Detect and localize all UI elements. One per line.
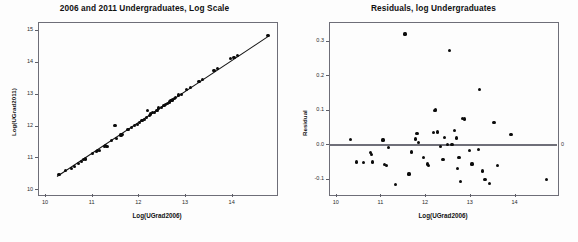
x-tick-mark bbox=[470, 194, 471, 197]
zero-reference-line bbox=[329, 144, 557, 145]
data-point bbox=[362, 161, 365, 164]
data-point bbox=[415, 132, 418, 135]
data-point bbox=[436, 130, 439, 133]
data-point bbox=[197, 80, 200, 83]
data-point bbox=[456, 167, 459, 170]
x-tick-mark bbox=[515, 194, 516, 197]
zero-reference-right-label: 0 bbox=[561, 141, 564, 147]
x-tick-mark bbox=[45, 194, 46, 197]
data-point bbox=[455, 136, 458, 139]
data-point bbox=[403, 32, 406, 35]
y-tick-label: 14 bbox=[10, 58, 33, 64]
y-tick-label: -0.1 bbox=[301, 175, 324, 181]
data-point bbox=[73, 165, 76, 168]
data-point bbox=[414, 137, 417, 140]
data-point bbox=[481, 169, 484, 172]
y-tick-label: 13 bbox=[10, 90, 33, 96]
y-tick-label: 11 bbox=[10, 154, 33, 160]
data-point bbox=[371, 160, 374, 163]
y-tick-label: 0.1 bbox=[301, 106, 324, 112]
x-tick-label: 14 bbox=[222, 199, 242, 205]
data-point bbox=[180, 93, 183, 96]
y-axis-label-right: Residual bbox=[301, 110, 308, 136]
data-point bbox=[57, 173, 60, 176]
x-tick-mark bbox=[92, 194, 93, 197]
y-tick-label: 12 bbox=[10, 122, 33, 128]
x-tick-label: 12 bbox=[128, 199, 148, 205]
y-tick-label: 10 bbox=[10, 186, 33, 192]
x-tick-mark bbox=[185, 194, 186, 197]
x-tick-label: 13 bbox=[175, 199, 195, 205]
y-tick-label: 15 bbox=[10, 26, 33, 32]
data-point bbox=[115, 137, 118, 140]
data-point bbox=[266, 34, 269, 37]
data-point bbox=[121, 133, 124, 136]
data-point bbox=[509, 133, 512, 136]
y-tick-mark bbox=[326, 179, 329, 180]
chart-title-right: Residuals, log Undergraduates bbox=[289, 3, 578, 13]
data-point bbox=[236, 54, 239, 57]
data-point bbox=[98, 149, 101, 152]
data-point bbox=[483, 178, 486, 181]
y-tick-mark bbox=[326, 110, 329, 111]
x-tick-label: 10 bbox=[326, 199, 346, 205]
x-tick-label: 10 bbox=[35, 199, 55, 205]
data-point bbox=[84, 157, 87, 160]
x-tick-mark bbox=[336, 194, 337, 197]
data-point bbox=[446, 143, 449, 146]
data-point bbox=[355, 160, 358, 163]
data-point bbox=[91, 152, 94, 155]
data-point bbox=[407, 172, 410, 175]
data-point bbox=[492, 121, 495, 124]
figure-canvas: 2006 and 2011 Undergraduates, Log Scale … bbox=[0, 0, 578, 242]
data-point bbox=[457, 156, 460, 159]
y-tick-mark bbox=[326, 75, 329, 76]
data-point bbox=[410, 150, 413, 153]
y-tick-mark bbox=[35, 94, 38, 95]
data-point bbox=[232, 56, 235, 59]
plot-area-right bbox=[329, 22, 559, 196]
y-tick-mark bbox=[326, 41, 329, 42]
data-point bbox=[463, 117, 466, 120]
x-tick-mark bbox=[232, 194, 233, 197]
data-point bbox=[381, 138, 384, 141]
x-axis-label-left: Log(UGrad2006) bbox=[38, 212, 276, 219]
y-tick-mark bbox=[35, 62, 38, 63]
data-point bbox=[212, 69, 215, 72]
y-tick-label: 0.0 bbox=[301, 141, 324, 147]
data-point bbox=[470, 162, 473, 165]
data-point bbox=[441, 158, 444, 161]
x-tick-mark bbox=[380, 194, 381, 197]
data-point bbox=[126, 128, 129, 131]
data-point bbox=[189, 86, 192, 89]
x-axis-label-right: Log(UGrad2006) bbox=[329, 212, 557, 219]
chart-title-left: 2006 and 2011 Undergraduates, Log Scale bbox=[0, 3, 289, 13]
x-tick-label: 13 bbox=[460, 199, 480, 205]
y-tick-mark bbox=[35, 157, 38, 158]
data-point bbox=[439, 145, 442, 148]
x-tick-mark bbox=[425, 194, 426, 197]
x-tick-label: 11 bbox=[370, 199, 390, 205]
data-point bbox=[113, 124, 116, 127]
y-tick-label: 0.3 bbox=[301, 37, 324, 43]
y-tick-mark bbox=[35, 189, 38, 190]
x-tick-label: 11 bbox=[82, 199, 102, 205]
y-tick-mark bbox=[35, 126, 38, 127]
chart-panel-undergrad-scatter: 2006 and 2011 Undergraduates, Log Scale … bbox=[0, 0, 289, 242]
y-tick-label: 0.2 bbox=[301, 72, 324, 78]
x-tick-label: 14 bbox=[505, 199, 525, 205]
x-tick-label: 12 bbox=[415, 199, 435, 205]
y-tick-mark bbox=[35, 30, 38, 31]
chart-panel-residuals-scatter: Residuals, log Undergraduates Residual L… bbox=[289, 0, 578, 242]
x-tick-mark bbox=[138, 194, 139, 197]
